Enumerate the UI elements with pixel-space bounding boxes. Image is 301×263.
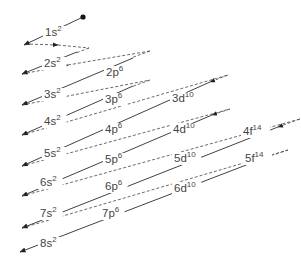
orbital-name: 1s: [45, 26, 57, 38]
connector-1s-2s-c: [76, 48, 89, 53]
orbital-name: 3d: [172, 92, 185, 104]
orbital-name: 4p: [105, 123, 118, 135]
electron-count: 6: [118, 178, 123, 187]
electron-count: 10: [186, 121, 195, 130]
connector-4s-3d-b: [210, 75, 228, 82]
connector-1s-2s-b: [58, 45, 89, 48]
electron-count: 2: [57, 24, 62, 33]
orbital-name: 2s: [44, 57, 56, 69]
orbital-name: 8s: [40, 237, 52, 249]
orbital-name: 6d: [174, 182, 187, 194]
electron-count: 2: [52, 235, 57, 244]
connector-3s-3p-b: [131, 80, 150, 87]
electron-count: 6: [118, 121, 123, 130]
electron-count: 14: [255, 150, 264, 159]
orbital-name: 7p: [102, 207, 115, 219]
orbital-name: 3s: [44, 88, 56, 100]
electron-count: 6: [118, 151, 123, 160]
orbital-name: 5p: [105, 153, 118, 165]
connector-5s-4d-b: [212, 109, 230, 115]
aufbau-diagram: 1s22s22p63s23p63d104s24p64d104f145s25p65…: [0, 0, 301, 263]
electron-count: 6: [115, 205, 120, 214]
orbital-name: 5d: [174, 152, 187, 164]
orbital-name: 5s: [44, 147, 56, 159]
electron-count: 6: [118, 91, 123, 100]
orbital-name: 4s: [44, 115, 56, 127]
connector-2s-2p-b: [68, 51, 150, 65]
electron-count: 2: [56, 55, 61, 64]
electron-count: 2: [52, 174, 57, 183]
orbital-name: 4d: [173, 123, 186, 135]
connector-1s-2s: [25, 44, 58, 45]
electron-count: 2: [56, 145, 61, 154]
connector-3s-3p: [22, 80, 150, 105]
connector-2s-2p-c: [131, 51, 150, 58]
orbital-name: 7s: [40, 207, 52, 219]
electron-count: 2: [56, 113, 61, 122]
electron-count: 6: [119, 64, 124, 73]
orbital-name: 3p: [105, 93, 118, 105]
orbital-name: 6p: [105, 180, 118, 192]
orbital-name: 6s: [40, 176, 52, 188]
electron-count: 2: [56, 86, 61, 95]
connector-6s-4f-b: [278, 119, 300, 127]
electron-count: 10: [187, 150, 196, 159]
electron-count: 2: [52, 205, 57, 214]
electron-count: 14: [253, 123, 262, 132]
orbital-name: 2p: [106, 66, 119, 78]
electron-count: 10: [185, 90, 194, 99]
electron-count: 10: [187, 180, 196, 189]
